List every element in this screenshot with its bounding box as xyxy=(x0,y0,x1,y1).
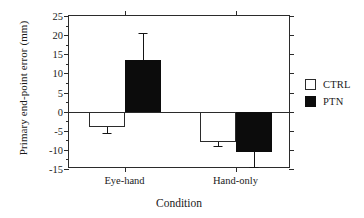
error-bar-cap xyxy=(102,133,111,134)
y-tick-label: 10 xyxy=(53,68,64,79)
y-tick-major-right xyxy=(289,131,294,132)
y-tick-major-right xyxy=(289,93,294,94)
y-tick-major-right xyxy=(289,73,294,74)
y-tick-label: 0 xyxy=(58,106,63,117)
legend-swatch-black-square xyxy=(305,96,316,107)
x-tick-top xyxy=(125,11,126,16)
x-tick-label: Eye-hand xyxy=(104,175,144,186)
y-tick-major-right xyxy=(289,112,294,113)
y-tick-minor xyxy=(66,45,69,46)
legend-label: CTRL xyxy=(323,79,351,90)
y-tick-major xyxy=(64,35,69,36)
y-tick-major xyxy=(64,16,69,17)
bar-chart-figure: Primary end-point error (mm) 2520151050-… xyxy=(0,0,364,218)
y-tick-minor xyxy=(66,159,69,160)
legend-item-ptn: PTN xyxy=(305,93,351,110)
error-bar-cap xyxy=(138,33,147,34)
y-tick-major xyxy=(64,73,69,74)
bar-ptn-eye-hand xyxy=(125,60,161,112)
legend-label: PTN xyxy=(323,96,343,107)
error-bar-line xyxy=(143,33,144,60)
plot-area: 2520151050-5-10-15 Eye-handHand-only xyxy=(68,15,290,168)
y-tick-major xyxy=(64,150,69,151)
y-tick-major xyxy=(64,54,69,55)
bar-ptn-hand-only xyxy=(236,112,272,152)
x-tick-label: Hand-only xyxy=(213,175,258,186)
x-tick-top xyxy=(236,11,237,16)
y-tick-minor xyxy=(66,83,69,84)
y-tick-major-right xyxy=(289,150,294,151)
x-tick xyxy=(236,167,237,172)
y-tick-major-right xyxy=(289,169,294,170)
y-tick-label: -5 xyxy=(54,125,63,136)
error-bar-line xyxy=(254,152,255,167)
y-tick-major-right xyxy=(289,16,294,17)
x-tick xyxy=(125,167,126,172)
y-tick-minor xyxy=(66,102,69,103)
y-tick-major-right xyxy=(289,54,294,55)
y-tick-label: 20 xyxy=(53,30,64,41)
y-axis-title: Primary end-point error (mm) xyxy=(17,3,29,173)
y-tick-label: -10 xyxy=(49,144,63,155)
y-tick-minor xyxy=(66,64,69,65)
error-bar-cap xyxy=(249,167,258,168)
y-tick-label: 15 xyxy=(53,49,64,60)
bar-ctrl-hand-only xyxy=(200,112,236,143)
y-tick-major xyxy=(64,169,69,170)
y-tick-label: 5 xyxy=(58,87,63,98)
error-bar-cap xyxy=(213,146,222,147)
chart-legend: CTRLPTN xyxy=(305,76,351,110)
y-tick-major xyxy=(64,131,69,132)
y-tick-major xyxy=(64,112,69,113)
y-tick-minor xyxy=(66,121,69,122)
y-tick-major xyxy=(64,93,69,94)
x-axis-title: Condition xyxy=(68,197,290,209)
y-tick-minor xyxy=(66,26,69,27)
bar-ctrl-eye-hand xyxy=(89,112,125,127)
y-tick-minor xyxy=(66,140,69,141)
legend-item-ctrl: CTRL xyxy=(305,76,351,93)
y-tick-major-right xyxy=(289,35,294,36)
y-tick-label: -15 xyxy=(49,164,63,175)
y-tick-label: 25 xyxy=(53,11,64,22)
legend-swatch-white-square xyxy=(305,79,316,90)
